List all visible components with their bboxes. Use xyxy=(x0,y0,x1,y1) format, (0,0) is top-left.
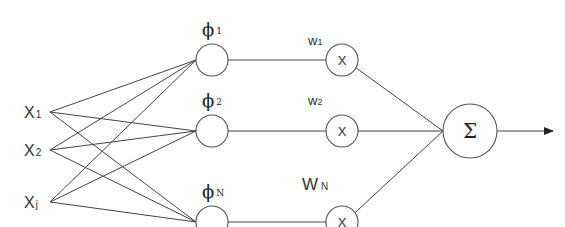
multiply-symbol-1: X xyxy=(338,53,347,68)
nodes xyxy=(196,44,497,227)
hidden-label-1: ϕ1 xyxy=(202,19,222,40)
edge-input-2-hidden-1 xyxy=(50,60,196,150)
hidden-node-2 xyxy=(196,115,228,147)
multiply-symbol-2: X xyxy=(338,124,347,139)
weight-label-1: w1 xyxy=(307,33,322,48)
labels: X1X2Xjϕ1ϕ2ϕNXw1Xw2XWNΣ xyxy=(24,19,477,227)
input-label-2: X2 xyxy=(24,142,42,159)
weight-label-3: WN xyxy=(302,175,328,194)
edge-input-3-hidden-1 xyxy=(50,60,196,202)
weight-label-2: w2 xyxy=(307,93,322,108)
edge-weight-3-sum xyxy=(355,131,443,213)
hidden-node-3 xyxy=(196,206,228,227)
edge-input-2-hidden-2 xyxy=(50,131,196,150)
input-label-3: Xj xyxy=(24,194,38,211)
sum-symbol: Σ xyxy=(463,119,477,143)
hidden-node-1 xyxy=(196,44,228,76)
edge-input-2-hidden-3 xyxy=(50,150,196,222)
input-label-1: X1 xyxy=(24,104,42,121)
hidden-label-3: ϕN xyxy=(202,181,224,202)
multiply-symbol-3: X xyxy=(338,215,347,227)
edge-input-1-hidden-1 xyxy=(50,60,196,112)
edge-input-3-hidden-2 xyxy=(50,131,196,202)
hidden-label-2: ϕ2 xyxy=(202,90,222,111)
edge-weight-1-sum xyxy=(356,68,443,131)
rbf-network-diagram: X1X2Xjϕ1ϕ2ϕNXw1Xw2XWNΣ xyxy=(0,0,565,227)
